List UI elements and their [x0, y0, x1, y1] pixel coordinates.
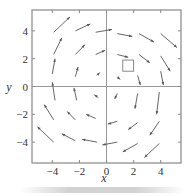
- arrow-head-icon: [102, 50, 105, 52]
- vector-arrow: [67, 112, 75, 120]
- vector-arrow: [128, 123, 137, 130]
- arrow-shaft: [54, 17, 70, 32]
- vector-arrow: [138, 75, 141, 85]
- arrow-head-icon: [167, 68, 170, 71]
- vector-arrow: [108, 121, 117, 124]
- y-tick-label: −4: [16, 136, 28, 148]
- arrow-head-icon: [86, 114, 89, 116]
- vector-arrow: [73, 88, 76, 101]
- x-axis-label: x: [100, 171, 107, 185]
- vector-arrow: [150, 121, 159, 135]
- page-shadow: [20, 187, 185, 193]
- y-tick-label: 0: [23, 81, 29, 93]
- vector-arrow: [82, 139, 97, 142]
- annotation-square: [123, 60, 134, 71]
- y-tick-label: −2: [16, 108, 28, 120]
- vector-arrow: [96, 50, 105, 54]
- arrow-shaft: [37, 127, 53, 142]
- arrow-head-icon: [76, 67, 79, 70]
- arrow-head-icon: [62, 134, 65, 137]
- vector-arrow: [161, 71, 164, 85]
- x-tick-label: −4: [46, 165, 58, 177]
- arrow-head-icon: [59, 38, 62, 41]
- y-axis-label: y: [5, 80, 12, 94]
- vector-arrow: [117, 55, 128, 58]
- vector-arrow: [86, 114, 95, 118]
- arrow-head-icon: [87, 24, 90, 27]
- vector-arrow: [156, 92, 160, 114]
- vector-arrow: [161, 56, 170, 71]
- x-tick-label: −2: [74, 165, 86, 177]
- y-tick-label: 4: [23, 25, 29, 37]
- vector-arrow: [161, 34, 177, 48]
- arrow-shaft: [157, 92, 160, 114]
- x-tick-label: 2: [131, 165, 137, 177]
- vector-arrow: [102, 142, 117, 145]
- vector-arrow: [117, 34, 132, 37]
- vector-arrow: [139, 55, 150, 63]
- vector-arrow: [139, 34, 154, 42]
- vector-arrow: [44, 105, 53, 120]
- arrow-head-icon: [115, 96, 118, 99]
- vector-arrow: [52, 59, 55, 74]
- vector-arrow: [134, 93, 137, 108]
- y-tick-label: 2: [23, 53, 29, 65]
- vector-arrow: [52, 82, 56, 100]
- y-tick-labels: −4−2024: [16, 25, 28, 148]
- vector-field-plot: −4−2024 −4−2024 x y: [0, 0, 193, 196]
- vector-arrow: [54, 38, 62, 55]
- vector-arrow: [117, 76, 120, 79]
- vector-arrow: [123, 144, 138, 152]
- arrow-head-icon: [108, 122, 111, 124]
- arrow-head-icon: [44, 105, 47, 108]
- arrow-shaft: [161, 34, 177, 48]
- vector-arrow: [96, 29, 112, 33]
- vector-arrow: [144, 144, 159, 158]
- vector-arrow: [54, 17, 70, 32]
- vector-arrow: [94, 95, 98, 98]
- arrow-head-icon: [138, 82, 141, 85]
- vector-arrow: [75, 67, 78, 77]
- axes-through-origin: [32, 10, 181, 163]
- vector-arrow: [62, 134, 76, 141]
- highlight-square: [123, 60, 134, 71]
- vector-arrows: [37, 17, 177, 157]
- vector-arrow: [37, 127, 53, 142]
- vector-arrow: [115, 93, 118, 99]
- vector-arrow: [75, 24, 90, 31]
- vector-arrow: [75, 45, 84, 55]
- vector-arrow: [97, 73, 100, 76]
- x-tick-label: 4: [158, 165, 164, 177]
